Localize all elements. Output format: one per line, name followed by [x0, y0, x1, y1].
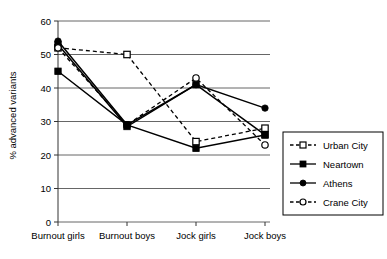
- y-tick-label: 30: [40, 116, 51, 127]
- marker-filled-circle: [193, 81, 199, 87]
- marker-open-circle: [300, 199, 306, 205]
- legend-label: Athens: [323, 178, 353, 189]
- series-lines: [58, 41, 265, 148]
- legend-label: Neartown: [323, 159, 364, 170]
- marker-filled-square: [300, 161, 306, 167]
- legend: Urban CityNeartownAthensCrane City: [283, 132, 383, 215]
- series-line: [58, 48, 265, 145]
- marker-filled-circle: [300, 180, 306, 186]
- marker-open-square: [300, 142, 306, 148]
- marker-filled-square: [262, 132, 268, 138]
- chart-canvas: 0102030405060 Burnout girlsBurnout boysJ…: [0, 0, 387, 259]
- legend-label: Urban City: [323, 140, 368, 151]
- x-category-label: Burnout boys: [99, 230, 155, 241]
- y-tick-label: 10: [40, 183, 51, 194]
- marker-open-circle: [193, 75, 199, 81]
- marker-filled-square: [193, 145, 199, 151]
- marker-open-circle: [262, 142, 268, 148]
- marker-filled-square: [124, 122, 130, 128]
- marker-open-square: [124, 51, 130, 57]
- marker-open-square: [193, 138, 199, 144]
- x-axis-ticks: [58, 222, 265, 226]
- y-tick-label: 50: [40, 49, 51, 60]
- marker-filled-square: [55, 68, 61, 74]
- legend-label: Crane City: [323, 197, 368, 208]
- marker-filled-circle: [55, 38, 61, 44]
- x-category-label: Jock boys: [244, 230, 286, 241]
- x-axis-category-labels: Burnout girlsBurnout boysJock girlsJock …: [31, 230, 286, 241]
- x-category-label: Jock girls: [176, 230, 216, 241]
- marker-open-square: [262, 125, 268, 131]
- x-category-label: Burnout girls: [31, 230, 85, 241]
- line-chart: % advanced variants 0102030405060 Burnou…: [0, 0, 387, 259]
- y-tick-label: 0: [46, 217, 51, 228]
- marker-open-circle: [55, 45, 61, 51]
- marker-filled-circle: [262, 105, 268, 111]
- y-tick-label: 20: [40, 150, 51, 161]
- y-tick-label: 40: [40, 83, 51, 94]
- series-line: [58, 71, 265, 148]
- y-tick-label: 60: [40, 16, 51, 27]
- y-axis-tick-labels: 0102030405060: [40, 16, 51, 228]
